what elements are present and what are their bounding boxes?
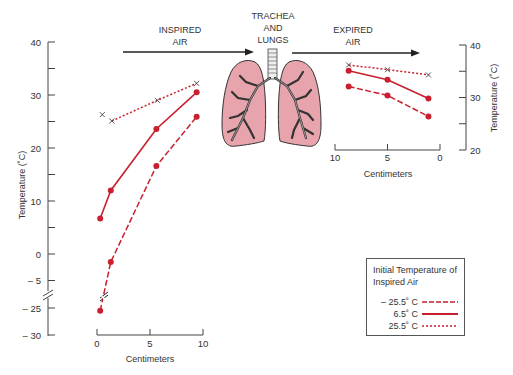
trachea-lungs-label: TRACHEA AND LUNGS — [251, 11, 294, 45]
svg-text:AND: AND — [263, 23, 283, 33]
data-point-icon — [108, 187, 114, 193]
svg-text:10: 10 — [30, 196, 41, 207]
expired-air-label: EXPIRED AIR — [333, 25, 373, 47]
svg-text:INSPIRED: INSPIRED — [159, 25, 202, 35]
data-point-icon — [153, 163, 159, 169]
svg-text:AIR: AIR — [345, 37, 361, 47]
solid-line-icon — [422, 311, 458, 317]
svg-text:5: 5 — [147, 338, 152, 349]
data-point-icon — [194, 89, 200, 95]
data-point-icon — [108, 259, 114, 265]
svg-text:LUNGS: LUNGS — [257, 35, 288, 45]
svg-text:0: 0 — [94, 338, 99, 349]
lungs-illustration-icon — [222, 49, 321, 146]
svg-text:0: 0 — [36, 249, 41, 260]
x-marker-icon — [426, 72, 431, 77]
x-marker-icon — [100, 112, 105, 117]
svg-text:5: 5 — [385, 152, 390, 163]
expired-air-chart: 203040 1050 Temperature (˚C) Centimeters — [330, 40, 499, 180]
x-marker-icon — [194, 81, 199, 86]
svg-text:10: 10 — [198, 338, 209, 349]
data-point-icon — [153, 126, 159, 132]
data-point-icon — [425, 96, 431, 102]
svg-text:– 5: – 5 — [28, 275, 41, 286]
left-y-axis: – 30– 25– 5010203040 — [23, 37, 56, 341]
legend-item-minus-25-5: – 25.5˚ C — [373, 296, 458, 308]
dotted-line-icon — [422, 323, 458, 329]
data-point-icon — [385, 77, 391, 83]
svg-text:– 30: – 30 — [23, 330, 42, 341]
data-point-icon — [346, 83, 352, 89]
data-point-icon — [425, 113, 431, 119]
right-y-axis-label: Temperature (˚C) — [489, 64, 499, 133]
legend-title: Initial Temperature of Inspired Air — [373, 264, 458, 288]
left-series — [97, 81, 199, 314]
svg-text:AIR: AIR — [172, 37, 188, 47]
left-x-axis-label: Centimeters — [126, 354, 175, 364]
svg-text:– 25: – 25 — [23, 303, 42, 314]
dashed-line-icon — [422, 299, 458, 305]
svg-text:40: 40 — [470, 40, 481, 51]
right-series — [346, 62, 432, 119]
right-x-axis: 1050 — [330, 144, 443, 163]
svg-text:30: 30 — [470, 92, 481, 103]
svg-text:10: 10 — [330, 152, 341, 163]
data-point-icon — [346, 68, 352, 74]
legend-item-6-5: 6.5˚ C — [373, 308, 458, 320]
svg-text:20: 20 — [30, 143, 41, 154]
left-x-axis: 0510 — [94, 329, 208, 349]
data-point-icon — [385, 92, 391, 98]
inspired-air-chart: – 30– 25– 5010203040 0510 Temperature (˚… — [17, 37, 208, 365]
expired-arrow-icon — [292, 50, 420, 57]
inspired-arrow-icon — [123, 49, 254, 56]
svg-text:20: 20 — [470, 145, 481, 156]
svg-text:EXPIRED: EXPIRED — [333, 25, 373, 35]
data-point-icon — [97, 215, 103, 221]
left-y-axis-label: Temperature (˚C) — [17, 151, 27, 220]
right-y-axis: 203040 — [459, 40, 481, 156]
legend: Initial Temperature of Inspired Air – 25… — [366, 258, 465, 336]
svg-text:0: 0 — [437, 152, 442, 163]
svg-text:30: 30 — [30, 90, 41, 101]
data-point-icon — [194, 114, 200, 120]
inspired-air-label: INSPIRED AIR — [159, 25, 202, 47]
svg-text:TRACHEA: TRACHEA — [251, 11, 294, 21]
right-x-axis-label: Centimeters — [364, 169, 413, 179]
data-point-icon — [97, 308, 103, 314]
legend-item-25-5: 25.5˚ C — [373, 320, 458, 332]
svg-text:40: 40 — [30, 37, 41, 48]
